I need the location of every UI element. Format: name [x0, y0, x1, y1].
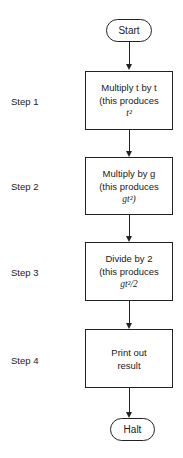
process-box-step-4: Print out result	[85, 329, 173, 388]
step-label: Step 2	[11, 181, 38, 192]
connector-arrow	[129, 215, 130, 236]
process-box-step-3: Divide by 2 (this produces gt²/2	[85, 242, 173, 301]
step-text-line3: gt²/2	[120, 278, 138, 291]
step-label: Step 1	[11, 96, 38, 107]
step-text-line1: Multiply by g	[103, 167, 156, 180]
halt-label: Halt	[124, 424, 142, 435]
arrowhead-icon	[126, 64, 132, 70]
step-text-line1: Print out	[111, 346, 146, 359]
connector-arrow	[129, 301, 130, 323]
process-box-step-2: Multiply by g (this produces gt²)	[85, 157, 173, 215]
step-label: Step 4	[11, 355, 38, 366]
connector-arrow	[129, 388, 130, 412]
step-text-line1: Multiply t by t	[101, 81, 156, 94]
step-text-line2: (this produces	[99, 265, 159, 278]
step-text-line2: result	[117, 359, 140, 372]
step-label: Step 3	[11, 267, 38, 278]
connector-arrow	[129, 130, 130, 151]
start-label: Start	[118, 25, 139, 36]
halt-terminal: Halt	[110, 418, 155, 441]
start-terminal: Start	[106, 19, 152, 42]
step-text-line2: (this produces	[99, 180, 159, 193]
step-text-line2: (this produces	[99, 94, 159, 107]
step-text-line3: t²	[126, 107, 132, 120]
connector-arrow	[129, 42, 130, 65]
step-text-line1: Divide by 2	[106, 252, 153, 265]
step-text-line3: gt²)	[122, 193, 135, 206]
process-box-step-1: Multiply t by t (this produces t²	[85, 71, 173, 130]
